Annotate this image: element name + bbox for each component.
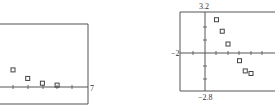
data-point-marker xyxy=(26,76,30,80)
data-point-marker xyxy=(238,59,242,63)
right-scatter-plot: 3.2 −2.8 −2 xyxy=(171,2,275,102)
right-data-points xyxy=(215,18,254,76)
data-point-marker xyxy=(215,18,219,22)
data-point-marker xyxy=(40,81,44,85)
left-scatter-plot: 7 xyxy=(0,24,94,104)
right-xmin-label: −2 xyxy=(171,49,180,58)
data-point-marker xyxy=(11,68,15,72)
right-ymax-label: 3.2 xyxy=(199,2,209,11)
data-point-marker xyxy=(226,42,230,46)
data-point-marker xyxy=(243,69,247,73)
right-ymin-label: −2.8 xyxy=(198,93,213,102)
left-data-points xyxy=(11,68,59,87)
left-xmax-label: 7 xyxy=(90,84,94,93)
charts-canvas: 7 3.2 −2.8 −2 xyxy=(0,0,275,110)
data-point-marker xyxy=(249,71,253,75)
data-point-marker xyxy=(220,29,224,33)
left-plot-frame xyxy=(0,24,88,104)
